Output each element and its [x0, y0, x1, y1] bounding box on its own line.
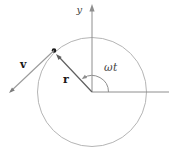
radius-vector-label: r — [63, 73, 69, 86]
y-axis-label: y — [76, 4, 83, 15]
angle-label: ωt — [104, 61, 118, 73]
velocity-vector-line — [11, 51, 55, 92]
velocity-vector-label: v — [19, 58, 27, 71]
angle-arc — [83, 76, 108, 92]
y-axis-arrowhead-icon — [89, 4, 94, 12]
circular-motion-diagram: y v r ωt — [0, 0, 172, 158]
circular-motion-figure: y v r ωt — [0, 0, 172, 158]
